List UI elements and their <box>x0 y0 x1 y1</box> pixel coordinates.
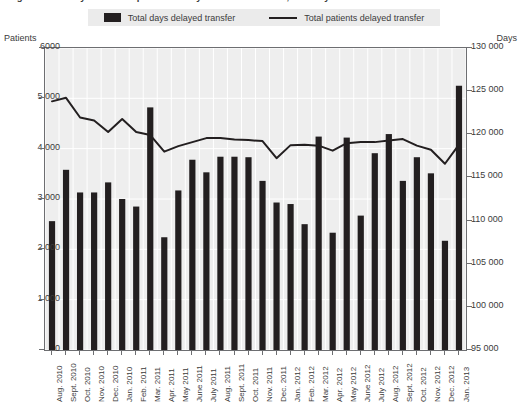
x-tick-mark-24 <box>388 351 389 355</box>
x-tick-8: Apr. 2011 <box>167 368 176 402</box>
x-tick-9: May 2011 <box>181 367 190 402</box>
x-tick-28: Dec. 2012 <box>447 366 456 402</box>
bar-12 <box>217 157 223 350</box>
right-tick-mark-0 <box>467 47 472 48</box>
left-tick-mark-5 <box>39 299 44 300</box>
x-tick-24: Aug. 2012 <box>391 366 400 402</box>
legend-label-days: Total days delayed transfer <box>128 13 236 23</box>
left-tick-mark-3 <box>39 198 44 199</box>
x-tick-25: Sept. 2012 <box>405 363 414 402</box>
right-tick-mark-1 <box>467 90 472 91</box>
bar-1 <box>63 170 69 350</box>
line-swatch-icon <box>269 17 297 19</box>
x-tick-mark-5 <box>121 351 122 355</box>
x-tick-mark-26 <box>416 351 417 355</box>
chart-legend: Total days delayed transfer Total patien… <box>88 9 440 26</box>
left-tick-mark-1 <box>39 97 44 98</box>
bar-21 <box>344 138 350 350</box>
x-tick-22: June 2012 <box>363 365 372 402</box>
x-tick-mark-4 <box>107 351 108 355</box>
x-tick-3: Nov. 2010 <box>97 366 106 402</box>
left-axis-title: Patients <box>4 33 37 43</box>
x-tick-15: Nov. 2011 <box>265 367 274 402</box>
x-tick-mark-17 <box>290 351 291 355</box>
x-tick-mark-2 <box>79 351 80 355</box>
x-tick-0: Aug. 2010 <box>55 366 64 402</box>
right-tick-mark-5 <box>467 263 472 264</box>
x-tick-mark-19 <box>318 351 319 355</box>
x-tick-29: Jan. 2013 <box>462 367 471 402</box>
left-tick-mark-4 <box>39 248 44 249</box>
x-tick-mark-9 <box>177 351 178 355</box>
x-tick-14: Oct. 2011 <box>251 368 260 402</box>
left-tick-mark-2 <box>39 148 44 149</box>
left-tick-mark-6 <box>39 349 44 350</box>
right-tick-4: 110 000 <box>471 214 503 224</box>
bar-29 <box>456 86 462 350</box>
x-tick-21: May 2012 <box>349 367 358 402</box>
x-tick-7: Mar. 2011 <box>153 367 162 402</box>
bar-22 <box>358 216 364 350</box>
x-tick-19: Mar. 2012 <box>321 366 330 402</box>
x-tick-mark-20 <box>332 351 333 355</box>
left-tick-3: 3 000 <box>37 192 60 202</box>
x-tick-18: Feb. 2012 <box>307 366 316 402</box>
left-tick-5: 1 000 <box>37 293 60 303</box>
x-tick-mark-28 <box>444 351 445 355</box>
x-tick-mark-7 <box>149 351 150 355</box>
right-tick-mark-2 <box>467 133 472 134</box>
x-tick-mark-14 <box>248 351 249 355</box>
x-tick-2: Oct. 2010 <box>83 367 92 402</box>
plot-area <box>44 47 467 351</box>
x-tick-13: Sept. 2011 <box>237 364 246 402</box>
right-tick-mark-7 <box>467 349 472 350</box>
x-tick-20: Apr. 2012 <box>335 368 344 402</box>
x-tick-4: Dec. 2010 <box>111 366 120 402</box>
bar-8 <box>161 237 167 350</box>
x-tick-11: July 2011 <box>209 368 218 402</box>
x-tick-27: Nov. 2012 <box>433 366 442 402</box>
bar-10 <box>189 160 195 350</box>
bar-17 <box>287 204 293 350</box>
left-tick-mark-0 <box>39 47 44 48</box>
right-tick-6: 100 000 <box>471 300 504 310</box>
bar-13 <box>231 157 237 350</box>
bar-23 <box>372 153 378 350</box>
right-tick-mark-4 <box>467 220 472 221</box>
right-tick-7: 95 000 <box>471 343 499 353</box>
right-tick-3: 115 000 <box>471 170 503 180</box>
right-tick-0: 130 000 <box>471 41 504 51</box>
figure-title: Figure: Total days and total patients de… <box>8 0 330 2</box>
bar-11 <box>203 172 209 350</box>
right-tick-1: 125 000 <box>471 84 504 94</box>
bar-15 <box>259 181 265 350</box>
x-tick-mark-21 <box>346 351 347 355</box>
x-tick-23: July 2012 <box>377 368 386 402</box>
bar-swatch-icon <box>104 13 121 22</box>
x-tick-16: Dec. 2011 <box>279 366 288 402</box>
x-tick-mark-18 <box>304 351 305 355</box>
left-tick-0: 6000 <box>40 41 60 51</box>
bar-20 <box>330 233 336 350</box>
bar-26 <box>414 157 420 350</box>
left-tick-4: 2 000 <box>37 242 60 252</box>
x-tick-mark-16 <box>276 351 277 355</box>
bar-18 <box>302 224 308 350</box>
x-tick-mark-10 <box>191 351 192 355</box>
bar-5 <box>119 199 125 350</box>
x-tick-10: June 2011 <box>195 365 204 402</box>
x-tick-mark-0 <box>51 351 52 355</box>
x-tick-mark-3 <box>93 351 94 355</box>
bar-3 <box>91 192 97 350</box>
bar-16 <box>273 203 279 350</box>
bar-2 <box>77 192 83 350</box>
legend-item-days: Total days delayed transfer <box>104 13 236 23</box>
bar-19 <box>316 137 322 350</box>
figure-title-strip: Figure: Total days and total patients de… <box>0 0 521 7</box>
left-tick-1: 5 000 <box>37 91 60 101</box>
bar-9 <box>175 190 181 350</box>
x-tick-mark-23 <box>374 351 375 355</box>
bar-0 <box>49 221 55 350</box>
bar-28 <box>442 241 448 350</box>
x-tick-mark-25 <box>402 351 403 355</box>
